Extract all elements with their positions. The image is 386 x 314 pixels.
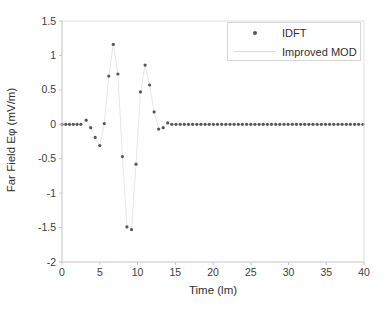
- y-tick-label: -1: [47, 187, 56, 199]
- idft-points: [60, 43, 364, 231]
- x-tick-label: 20: [207, 266, 219, 278]
- idft-marker-dot-icon: [253, 31, 257, 35]
- legend-label-idft: IDFT: [282, 27, 306, 39]
- legend-label-improved-mod: Improved MOD: [282, 46, 357, 58]
- y-tick-label: 1.5: [41, 15, 56, 27]
- y-tick-label: -1.5: [38, 221, 56, 233]
- x-tick-label: 35: [320, 266, 332, 278]
- y-axis-label: Far Field Eφ (mV/m): [5, 20, 21, 260]
- y-tick-label: 0: [50, 118, 56, 130]
- y-tick-label: 1: [50, 49, 56, 61]
- x-tick-label: 15: [169, 266, 181, 278]
- x-tick-label: 0: [59, 266, 65, 278]
- improved-mod-line-icon: [234, 51, 276, 52]
- x-tick-label: 5: [97, 266, 103, 278]
- x-axis-label: Time (lm): [62, 284, 364, 296]
- figure: 05101520253035401.510.50-0.5-1-1.5-2 Tim…: [0, 0, 386, 314]
- y-tick-label: -2: [47, 256, 56, 268]
- improved-mod-curve: [62, 44, 363, 229]
- x-tick-label: 40: [358, 266, 370, 278]
- x-tick-label: 10: [132, 266, 144, 278]
- legend-item-idft: IDFT: [228, 23, 360, 42]
- legend-item-improved-mod: Improved MOD: [228, 42, 360, 61]
- x-tick-label: 25: [245, 266, 257, 278]
- legend-box: IDFT Improved MOD: [227, 22, 361, 61]
- y-tick-label: -0.5: [38, 152, 56, 164]
- x-tick-label: 30: [283, 266, 295, 278]
- y-tick-label: 0.5: [41, 83, 56, 95]
